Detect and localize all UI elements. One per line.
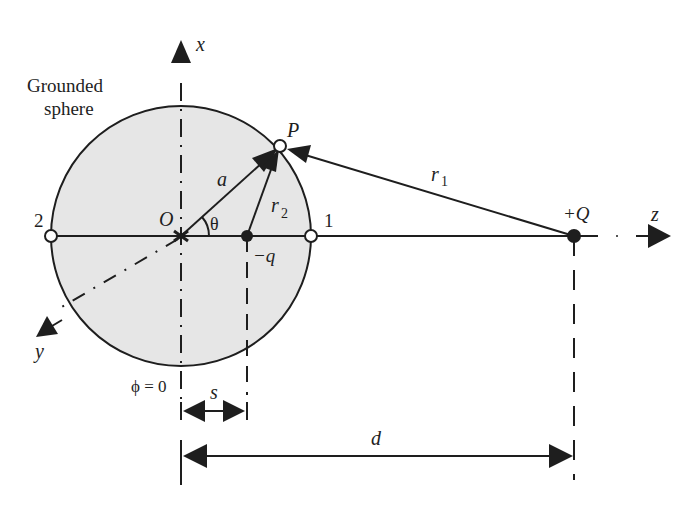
y-axis-label: y (33, 340, 44, 363)
z-axis-label: z (650, 203, 659, 225)
origin-label: O (159, 208, 173, 230)
d-arrow-right-icon (549, 444, 573, 468)
x-axis-arrow-icon (171, 40, 191, 63)
radius-label: a (217, 168, 227, 190)
d-label: d (371, 427, 382, 449)
y-axis-arrow-shaft (52, 320, 62, 326)
theta-label: θ (210, 214, 219, 234)
y-axis-arrow-icon (36, 316, 58, 337)
s-arrow-left-icon (183, 400, 205, 422)
sphere-label-line2: sphere (44, 98, 94, 119)
point-1-marker (305, 230, 317, 242)
x-axis-label: x (195, 33, 205, 55)
image-charge-label: −q (253, 245, 276, 266)
point-2-marker (45, 230, 57, 242)
d-arrow-left-icon (183, 444, 207, 468)
point-p-marker (274, 140, 286, 152)
r1-subscript: 1 (441, 174, 448, 189)
point-2-label: 2 (34, 210, 44, 231)
grounded-sphere-diagram: z x y Grounded sphere O P 1 2 −q +Q a θ … (0, 0, 698, 507)
s-arrow-right-icon (223, 400, 245, 422)
z-axis-dot (616, 235, 618, 237)
r1-label: r (431, 163, 439, 185)
r2-subscript: 2 (281, 206, 288, 221)
source-charge-marker (567, 229, 581, 243)
r1-arrow-icon (287, 145, 311, 163)
s-label: s (210, 381, 218, 403)
source-charge-label: +Q (563, 203, 590, 224)
image-charge-marker (241, 230, 253, 242)
point-p-label: P (286, 119, 299, 141)
phi-label: ϕ = 0 (131, 377, 167, 396)
sphere-label-line1: Grounded (27, 75, 103, 96)
r2-label: r (271, 194, 279, 216)
z-axis-arrow-icon (648, 224, 671, 248)
point-1-label: 1 (324, 210, 334, 231)
